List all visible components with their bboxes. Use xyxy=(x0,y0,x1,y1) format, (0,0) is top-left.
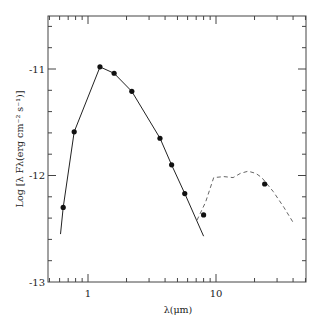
y-tick-label-12: -12 xyxy=(29,170,45,181)
axis-ticks xyxy=(48,16,306,282)
data-point xyxy=(182,191,187,196)
data-point xyxy=(112,71,117,76)
data-point xyxy=(157,136,162,141)
data-point xyxy=(72,129,77,134)
x-axis-label: λ(μm) xyxy=(164,304,193,315)
plot-frame xyxy=(48,16,306,282)
y-axis-label: Log [λ Fλ(erg cm⁻² s⁻¹)] xyxy=(14,91,25,208)
data-point xyxy=(61,205,66,210)
data-point xyxy=(262,181,267,186)
data-point xyxy=(169,162,174,167)
data-point xyxy=(129,89,134,94)
y-tick-label-13: -13 xyxy=(29,277,45,288)
y-tick-label-11: -11 xyxy=(29,64,45,75)
x-tick-label-1: 1 xyxy=(85,288,91,299)
data-point xyxy=(201,212,206,217)
series-lines xyxy=(61,67,294,236)
dashed-spectrum-line xyxy=(197,171,293,222)
x-tick-label-10: 10 xyxy=(210,288,223,299)
sed-chart: 1 10 -11 -12 -13 λ(μm) Log [λ Fλ(erg cm⁻… xyxy=(0,0,322,323)
data-point xyxy=(97,64,102,69)
